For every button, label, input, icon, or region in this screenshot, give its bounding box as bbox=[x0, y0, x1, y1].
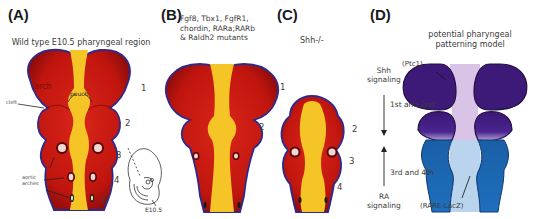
ptc1-label: (Ptc1) bbox=[402, 60, 423, 69]
panel-b-arch-1: 1 bbox=[280, 82, 285, 92]
panel-a-arch-2: 2 bbox=[125, 118, 130, 128]
panel-c-arch-3: 3 bbox=[349, 156, 354, 166]
panel-b-title: Fgf8, Tbx1, FgfR1, chordin, RARa;RARb & … bbox=[180, 14, 280, 43]
panel-a-arch-6: 6 bbox=[102, 196, 107, 206]
third-fourth-label: 3rd and 4th bbox=[390, 168, 434, 177]
rare-lacz-label: (RARE-LacZ) bbox=[420, 202, 463, 211]
pouch-label: pouch bbox=[70, 90, 88, 97]
panel-a-arch-3: 3 bbox=[116, 150, 121, 160]
panel-b-arch-2: 2 bbox=[259, 122, 264, 132]
ra-signaling-label: RA signaling bbox=[364, 192, 404, 210]
panel-d-letter: (D) bbox=[370, 6, 391, 23]
shh-signaling-label: Shh signaling bbox=[364, 66, 404, 84]
panel-c-title: Shh-/- bbox=[300, 36, 340, 46]
embryo-sketch-icon bbox=[128, 148, 161, 206]
panel-d-tissue bbox=[381, 64, 527, 212]
panel-a-arch-4: 4 bbox=[114, 175, 119, 185]
panel-b-tissue bbox=[166, 64, 278, 212]
first-second-label: 1st and 2nd bbox=[390, 100, 435, 109]
panel-d-title: potential pharyngeal patterning model bbox=[400, 30, 540, 49]
panel-c-arch-2: 2 bbox=[352, 124, 357, 134]
arch-label: arch bbox=[34, 82, 51, 91]
panel-c-arch-4: 4 bbox=[337, 182, 342, 192]
panel-c-tissue bbox=[281, 96, 343, 212]
panel-c-letter: (C) bbox=[277, 6, 298, 23]
cleft-label: cleft bbox=[6, 99, 17, 105]
embryo-stage-label: E10.5 bbox=[145, 206, 162, 213]
panel-b-letter: (B) bbox=[161, 6, 182, 23]
panel-a-arch-1: 1 bbox=[141, 83, 146, 93]
aortic-arches-label: aortic arches bbox=[22, 174, 46, 186]
